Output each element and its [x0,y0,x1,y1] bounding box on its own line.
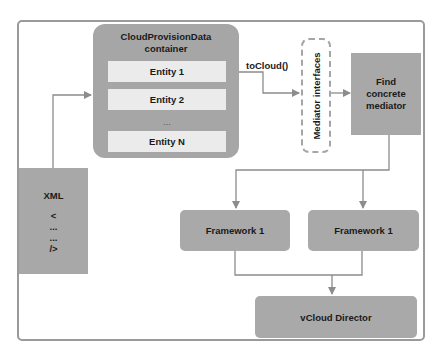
framework-left-box: Framework 1 [180,210,290,251]
container-title: CloudProvisionData container [93,31,239,55]
xml-line-2: ... [19,221,88,232]
find-line3: mediator [366,100,406,112]
entity-1: Entity 1 [108,61,226,82]
tocloud-arrow [238,72,299,93]
entity-ellipsis: ... [108,117,226,131]
xml-line-3: ... [19,232,88,243]
mediator-label: Mediator interfaces [311,52,322,139]
mediator-interfaces-box: Mediator interfaces [301,38,331,153]
entity-2: Entity 2 [108,89,226,110]
container-title-line1: CloudProvisionData [93,31,239,43]
xml-box: XML < ... ... /> [19,168,88,274]
xml-to-container-arrow [53,95,91,168]
xml-title: XML [19,190,88,202]
container-title-line2: container [93,43,239,55]
xml-line-1: < [19,210,88,221]
find-concrete-mediator-box: Find concrete mediator [351,53,421,135]
xml-line-4: /> [19,243,88,254]
tocloud-label: toCloud() [246,60,288,71]
vcloud-director-box: vCloud Director [255,296,417,338]
find-line1: Find [366,76,406,88]
framework-right-box: Framework 1 [308,210,419,251]
entity-n: Entity N [108,131,226,152]
frameworks-to-vcloud-arrow [235,251,362,294]
find-line2: concrete [366,88,406,100]
